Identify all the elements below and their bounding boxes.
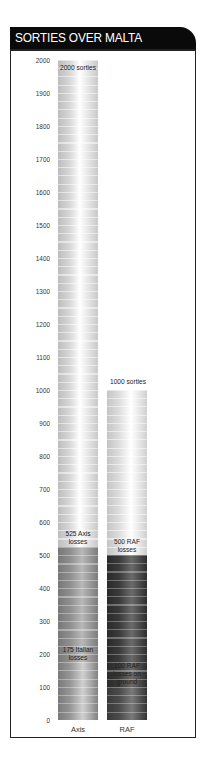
raf-losses-label: 500 RAFlosses xyxy=(106,538,148,554)
axis-sorties-label: 2000 sorties xyxy=(59,64,98,72)
chart-title: SORTIES OVER MALTA xyxy=(15,30,142,45)
y-tick: 500 xyxy=(16,551,50,560)
y-tick: 1400 xyxy=(16,254,50,263)
italian-losses-label: 175 Italianlosses xyxy=(57,646,99,662)
bar-axis xyxy=(58,60,98,720)
bar-axis-sorties xyxy=(58,60,98,547)
y-tick: 800 xyxy=(16,452,50,461)
x-label-axis: Axis xyxy=(58,725,98,734)
y-tick: 300 xyxy=(16,617,50,626)
y-tick: 600 xyxy=(16,518,50,527)
bar-raf-ground-losses xyxy=(107,687,147,720)
axis-losses-label: 525 Axislosses xyxy=(57,530,99,546)
y-tick: 400 xyxy=(16,584,50,593)
y-tick: 1700 xyxy=(16,155,50,164)
y-tick: 1800 xyxy=(16,122,50,131)
x-label-raf: RAF xyxy=(107,725,147,734)
y-tick: 200 xyxy=(16,650,50,659)
y-tick: 900 xyxy=(16,419,50,428)
bar-raf-sorties xyxy=(107,390,147,555)
y-tick: 0 xyxy=(16,716,50,725)
y-tick: 1300 xyxy=(16,287,50,296)
y-tick: 100 xyxy=(16,683,50,692)
y-tick: 1200 xyxy=(16,320,50,329)
bar-axis-italian-losses xyxy=(58,662,98,720)
raf-sorties-label: 1000 sorties xyxy=(105,378,151,386)
raf-ground-losses-label: 100 RAFlosses onground xyxy=(106,662,148,686)
y-tick: 1000 xyxy=(16,386,50,395)
y-tick: 700 xyxy=(16,485,50,494)
y-tick: 2000 xyxy=(16,56,50,65)
y-tick: 1100 xyxy=(16,353,50,362)
y-tick: 1900 xyxy=(16,89,50,98)
y-tick: 1600 xyxy=(16,188,50,197)
chart-header: SORTIES OVER MALTA xyxy=(10,27,196,49)
y-tick: 1500 xyxy=(16,221,50,230)
